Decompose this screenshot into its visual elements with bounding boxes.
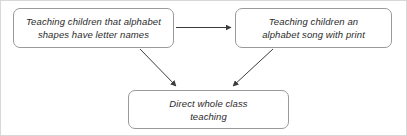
node-alphabet-song-label: Teaching children an alphabet song with …: [256, 15, 371, 41]
node-alphabet-shapes-label: Teaching children that alphabet shapes h…: [20, 15, 167, 41]
flowchart-diagram: Teaching children that alphabet shapes h…: [0, 0, 407, 136]
node-alphabet-song: Teaching children an alphabet song with …: [235, 8, 392, 48]
node-direct-teaching: Direct whole class teaching: [128, 90, 289, 129]
connector-song-to-direct: [233, 49, 273, 86]
node-alphabet-shapes: Teaching children that alphabet shapes h…: [13, 8, 174, 48]
connector-shapes-to-direct: [140, 49, 176, 86]
node-direct-teaching-label: Direct whole class teaching: [163, 97, 253, 123]
